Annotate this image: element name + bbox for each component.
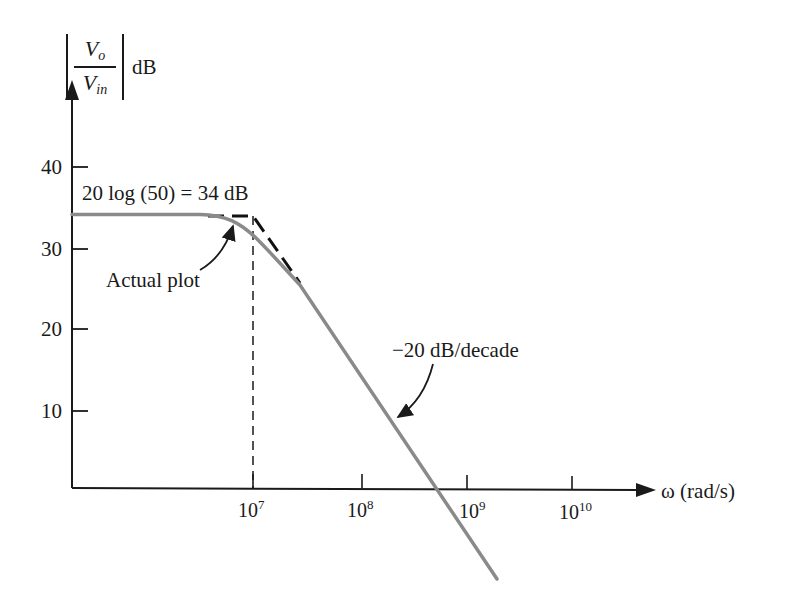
- y-tick-30: 30: [22, 239, 62, 260]
- abs-bar-right: [122, 34, 124, 100]
- numerator-sub: o: [98, 48, 105, 63]
- y-unit: dB: [132, 55, 157, 80]
- y-axis-label: Vo Vin dB: [66, 34, 157, 100]
- x-tick-1e8: 108: [347, 498, 374, 520]
- denominator-sub: in: [96, 82, 107, 97]
- x-axis-arrow-icon: [636, 483, 656, 497]
- denominator: V: [83, 70, 96, 95]
- y-tick-20: 20: [22, 319, 62, 340]
- slope-arrow-icon: [398, 364, 433, 417]
- x-tick-1e10: 1010: [559, 500, 592, 522]
- slope-annotation: −20 dB/decade: [392, 340, 519, 361]
- fraction-bar: [74, 66, 116, 68]
- x-tick-1e7: 107: [238, 498, 265, 520]
- actual-plot-arrow-icon: [200, 226, 233, 270]
- x-axis: [72, 474, 656, 497]
- abs-bar-left: [66, 34, 68, 100]
- y-tick-40: 40: [22, 157, 62, 178]
- x-tick-1e9: 109: [459, 499, 486, 521]
- y-axis: [65, 80, 88, 488]
- x-axis-label: ω (rad/s): [661, 481, 735, 502]
- y-tick-10: 10: [22, 401, 62, 422]
- numerator: V: [85, 36, 98, 61]
- actual-plot-annotation: Actual plot: [106, 270, 200, 291]
- dc-gain-annotation: 20 log (50) = 34 dB: [82, 183, 248, 204]
